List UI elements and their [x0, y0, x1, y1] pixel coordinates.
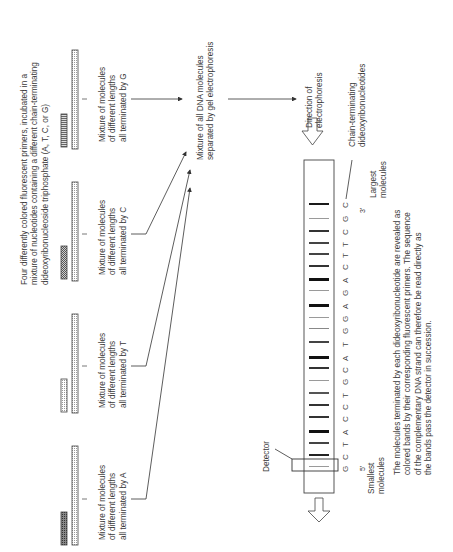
seq-base: G — [341, 466, 350, 472]
seq-base: T — [341, 393, 350, 398]
reaction-label-c: Mixture of molecules of different length… — [98, 200, 129, 275]
seq-base: C — [341, 202, 350, 208]
end-5-label: 5' — [358, 466, 368, 471]
seq-base: C — [341, 264, 350, 270]
seq-base: A — [341, 304, 350, 309]
mixture-label: Mixture of all DNA molecules separated b… — [196, 42, 217, 160]
end-3-label: 3' — [358, 208, 368, 213]
seq-base: C — [341, 367, 350, 373]
seq-base: A — [341, 356, 350, 361]
intro-text: Four differently colored fluorescent pri… — [20, 62, 51, 285]
seq-base: C — [341, 404, 350, 410]
seq-base: G — [341, 316, 350, 322]
direction-label: Direction of electrophoresis — [305, 72, 326, 128]
seq-base: G — [341, 290, 350, 296]
seq-base: C — [341, 229, 350, 235]
seq-base: T — [341, 242, 350, 247]
seq-base: C — [341, 416, 350, 422]
seq-base: G — [341, 216, 350, 222]
detector-label: Detector — [262, 441, 272, 472]
reaction-label-a: Mixture of molecules of different length… — [98, 465, 129, 540]
seq-base: T — [341, 442, 350, 447]
seq-base: A — [341, 278, 350, 283]
smallest-label: Smallest molecules — [367, 457, 388, 494]
seq-base: A — [341, 430, 350, 435]
reaction-label-t: Mixture of molecules of different length… — [98, 333, 129, 408]
seq-base: T — [341, 253, 350, 258]
reaction-label-g: Mixture of molecules of different length… — [98, 67, 129, 142]
largest-label: Largest molecules — [369, 161, 390, 198]
caption: The molecules terminated by each dideoxy… — [393, 210, 435, 475]
chain-terminating-label: Chain-terminating dideoxyribonucleotides — [348, 64, 369, 147]
seq-base: G — [341, 379, 350, 385]
seq-base: C — [341, 454, 350, 460]
seq-base: T — [341, 342, 350, 347]
seq-base: G — [341, 328, 350, 334]
